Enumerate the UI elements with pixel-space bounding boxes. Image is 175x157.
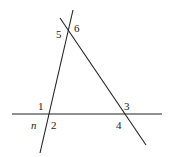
slanted-line	[60, 18, 146, 145]
angle-label-2: 2	[51, 119, 57, 131]
angle-label-5: 5	[56, 28, 62, 40]
angle-label-6: 6	[74, 22, 80, 34]
angle-label-1: 1	[38, 100, 44, 112]
geometry-diagram: 1 2 3 4 5 6 n	[0, 0, 175, 157]
line-label-n: n	[31, 119, 37, 131]
angle-label-4: 4	[116, 119, 122, 131]
angle-label-3: 3	[124, 100, 130, 112]
